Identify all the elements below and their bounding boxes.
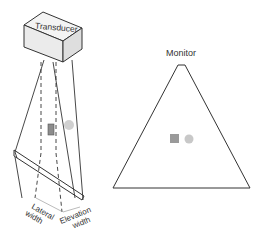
lateral-width-label: Lateral width [23, 200, 58, 230]
transducer-box [24, 12, 82, 62]
target-sphere [64, 120, 74, 130]
monitor-target-circle [185, 135, 194, 144]
scan-plane [14, 150, 84, 200]
monitor-title: Monitor [166, 48, 196, 58]
monitor-target-square [170, 134, 179, 143]
ultrasound-beam-diagram: Lateral width Elevation width Transducer… [0, 0, 266, 241]
target-cylinder [48, 124, 54, 135]
monitor-sector [113, 65, 250, 188]
beam-dashed-lines [35, 62, 62, 212]
elevation-width-label: Elevation width [58, 204, 97, 234]
